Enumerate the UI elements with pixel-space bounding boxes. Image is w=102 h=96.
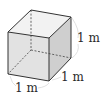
cube-diagram: 1 m 1 m 1 m: [0, 0, 102, 96]
front-face: [8, 32, 49, 81]
depth-label: 1 m: [61, 71, 84, 83]
width-label: 1 m: [15, 82, 38, 94]
height-label: 1 m: [77, 32, 100, 44]
